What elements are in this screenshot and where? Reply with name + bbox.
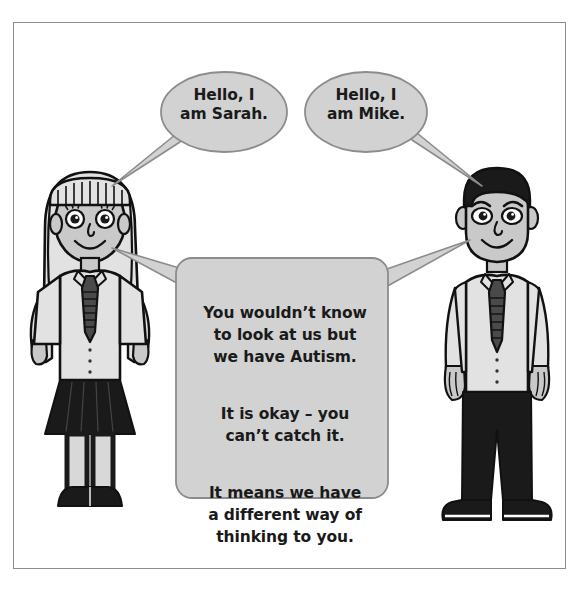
sarah-leg-left xyxy=(67,434,87,490)
character-mike xyxy=(442,168,551,520)
sarah-ear-right xyxy=(118,214,130,234)
shared-message-paragraph-2: It is okay – you can’t catch it. xyxy=(186,403,384,447)
sarah-sleeve-right xyxy=(120,276,146,344)
mike-greeting-text: Hello, I am Mike. xyxy=(306,86,426,124)
character-sarah xyxy=(31,172,149,506)
sarah-sleeve-left xyxy=(34,276,60,344)
shared-message-paragraph-1: You wouldn’t know to look at us but we h… xyxy=(186,302,384,368)
sarah-ear-left xyxy=(50,214,62,234)
shared-message-text: You wouldn’t know to look at us but we h… xyxy=(186,280,384,570)
mike-eye-left xyxy=(472,208,492,224)
mike-trousers xyxy=(462,392,532,500)
shared-message-paragraph-3: It means we have a different way of thin… xyxy=(186,482,384,548)
sarah-tie xyxy=(82,276,98,342)
sarah-greeting-text: Hello, I am Sarah. xyxy=(163,86,285,124)
sarah-leg-right xyxy=(93,434,113,490)
shared-bubble-tail-right xyxy=(384,240,470,288)
sarah-skirt xyxy=(45,380,135,434)
mike-eye-right xyxy=(502,208,522,224)
mike-tie xyxy=(489,280,505,352)
poster-canvas: Hello, I am Sarah. Hello, I am Mike. You… xyxy=(0,0,581,596)
